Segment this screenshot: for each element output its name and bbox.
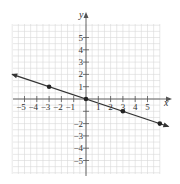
x-tick-label: −5 [16,102,26,112]
y-axis-label: y [78,9,84,20]
y-tick-label: 5 [79,33,84,43]
plotted-line [12,74,168,126]
data-series [11,74,169,128]
y-axis-arrow-icon [84,12,89,18]
y-tick-label: −5 [73,156,83,166]
x-tick-label: 5 [145,102,150,112]
x-tick-label: −3 [41,102,51,112]
y-tick-label: 3 [79,57,84,67]
x-tick-label: 4 [133,102,138,112]
y-tick-label: −2 [73,119,83,129]
x-tick-label: −1 [65,102,75,112]
coordinate-plane: −5−4−3−2−11234554321−2−3−4−5 x y [0,0,180,184]
y-tick-label: −3 [73,131,83,141]
y-tick-label: 2 [79,69,84,79]
x-axis-label: x [163,97,169,108]
data-point [47,84,52,89]
data-point [84,97,89,102]
data-point [121,109,126,114]
x-tick-label: −4 [29,102,39,112]
x-tick-label: −2 [53,102,63,112]
data-point [158,121,163,126]
y-tick-label: −4 [73,143,83,153]
line-arrow-right-icon [163,123,169,128]
y-tick-label: 4 [79,45,84,55]
y-tick-label: 1 [79,82,84,92]
